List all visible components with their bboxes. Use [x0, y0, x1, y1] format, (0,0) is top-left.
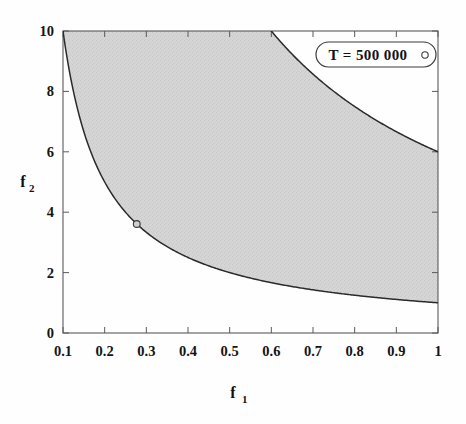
- y-axis-title-text: f: [20, 173, 26, 190]
- y-tick-label-6: 6: [47, 144, 54, 160]
- y-tick-label-4: 4: [47, 204, 54, 220]
- x-tick-label-0.3: 0.3: [137, 343, 155, 359]
- y-tick-label-10: 10: [40, 23, 55, 39]
- x-tick-label-0.9: 0.9: [387, 343, 405, 359]
- pareto-front-chart: 0.10.20.30.40.50.60.70.80.91 0246810 f 1…: [0, 0, 466, 424]
- x-tick-label-0.6: 0.6: [262, 343, 280, 359]
- x-tick-label-0.8: 0.8: [346, 343, 364, 359]
- x-tick-label-0.1: 0.1: [54, 343, 72, 359]
- x-tick-label-0.2: 0.2: [96, 343, 114, 359]
- x-tick-label-1: 1: [434, 343, 441, 359]
- highlighted-solution-marker[interactable]: [133, 221, 140, 228]
- y-tick-label-8: 8: [47, 83, 54, 99]
- y-tick-label-0: 0: [47, 325, 54, 341]
- x-axis-title-text: f: [230, 384, 236, 401]
- x-tick-label-0.5: 0.5: [221, 343, 239, 359]
- chart-figure: 0.10.20.30.40.50.60.70.80.91 0246810 f 1…: [0, 0, 466, 424]
- legend[interactable]: T = 500 000: [316, 42, 436, 67]
- x-tick-label-0.4: 0.4: [179, 343, 197, 359]
- x-axis-title-subscript: 1: [242, 393, 248, 405]
- y-axis-title-subscript: 2: [29, 182, 35, 194]
- y-tick-label-2: 2: [47, 265, 54, 281]
- legend-label: T = 500 000: [329, 47, 408, 63]
- legend-marker-icon: [422, 52, 428, 58]
- x-tick-label-0.7: 0.7: [304, 343, 322, 359]
